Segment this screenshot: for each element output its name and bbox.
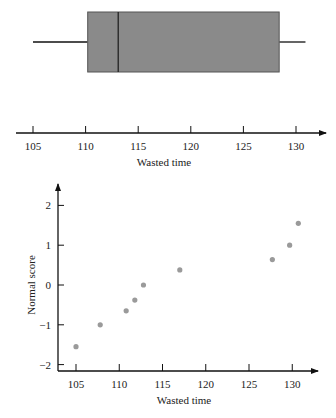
- data-point: [73, 344, 78, 349]
- box-x-tick-label: 125: [235, 140, 252, 152]
- data-point: [98, 322, 103, 327]
- box-x-tick-label: 120: [183, 140, 200, 152]
- data-point: [141, 282, 146, 287]
- scatter-x-axis-title: Wasted time: [157, 394, 212, 406]
- data-point: [177, 267, 182, 272]
- box-x-tick-label: 110: [78, 140, 95, 152]
- scatter-x-tick-label: 125: [241, 378, 258, 390]
- data-point: [287, 243, 292, 248]
- box-x-tick-label: 130: [288, 140, 305, 152]
- scatter-x-tick-label: 120: [198, 378, 215, 390]
- box-x-axis: 105110115120125130 Wasted time: [16, 126, 326, 168]
- scatter-x-tick-label: 130: [284, 378, 301, 390]
- box-x-tick-label: 115: [130, 140, 147, 152]
- scatter-y-tick-label: 1: [46, 239, 52, 251]
- data-point: [124, 308, 129, 313]
- scatter-x-tick-label: 115: [154, 378, 171, 390]
- scatter-y-tick-label: −2: [39, 359, 51, 371]
- box-plot: [33, 12, 305, 72]
- iqr-box: [88, 12, 279, 72]
- chart-canvas: 105110115120125130 Wasted time 210−1−2 1…: [0, 0, 336, 418]
- scatter-y-axis-title: Normal score: [25, 255, 37, 315]
- scatter-y-tick-label: −1: [39, 319, 51, 331]
- data-point: [132, 298, 137, 303]
- data-point: [270, 257, 275, 262]
- scatter-x-tick-label: 105: [68, 378, 85, 390]
- data-point: [296, 221, 301, 226]
- box-x-axis-title: Wasted time: [137, 156, 192, 168]
- scatter-x-tick-label: 110: [111, 378, 128, 390]
- scatter-plot: 210−1−2 105110115120125130 Normal score …: [25, 184, 318, 406]
- scatter-y-tick-label: 0: [46, 279, 52, 291]
- scatter-y-tick-label: 2: [46, 199, 52, 211]
- box-x-tick-label: 105: [25, 140, 42, 152]
